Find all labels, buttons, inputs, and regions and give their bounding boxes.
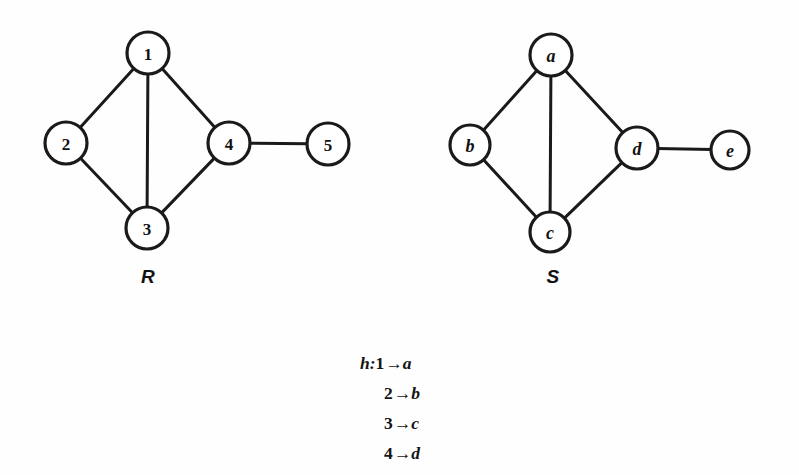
graph-node-1: 1	[127, 32, 169, 74]
node-label: 4	[225, 135, 234, 154]
graph-edge	[249, 143, 308, 144]
mapping-line: 4→d	[360, 438, 540, 468]
graph-edge	[657, 148, 712, 149]
mapping-target: a	[403, 353, 412, 373]
graph-edge	[483, 70, 538, 131]
nodes-layer: 12345abcde	[45, 32, 749, 252]
node-label: c	[546, 223, 554, 243]
node-label: 5	[324, 136, 333, 155]
mapping-target: d	[411, 443, 420, 463]
mapping-target: c	[411, 413, 419, 433]
mapping-source: 3	[384, 413, 393, 433]
graph-edge	[161, 157, 215, 213]
graph-node-2: 2	[45, 122, 87, 164]
mapping-line: 3→c	[360, 408, 540, 438]
node-label: d	[633, 139, 643, 159]
mapping-source: 4	[384, 443, 393, 463]
graph-node-5: 5	[307, 123, 349, 165]
mapping-arrow-icon: →	[393, 443, 412, 463]
graph-edge	[147, 73, 148, 208]
mapping-source: 1	[376, 353, 385, 373]
graph-node-d: d	[616, 127, 658, 169]
node-label: 2	[62, 135, 71, 154]
mapping-arrow-icon: →	[393, 383, 412, 403]
graph-edge	[565, 70, 624, 134]
graph-edge	[483, 159, 537, 218]
figure-root: 12345abcde R S h:1→a2→b3→c4→d	[0, 0, 799, 475]
mapping-target: b	[411, 383, 420, 403]
graph-edge	[80, 157, 133, 213]
graph-edge	[79, 68, 134, 128]
mapping-line: 2→b	[360, 378, 540, 408]
graph-node-e: e	[711, 131, 749, 169]
node-label: 3	[143, 220, 152, 239]
graph-node-c: c	[530, 212, 570, 252]
node-label: b	[466, 136, 475, 156]
graph-edge	[550, 75, 551, 213]
node-label: e	[726, 141, 734, 161]
mapping-source: 2	[384, 383, 393, 403]
mapping-function-name: h:	[360, 353, 376, 373]
mapping-line: h:1→a	[360, 348, 540, 378]
graph-edge	[564, 162, 623, 219]
graph-node-4: 4	[208, 122, 250, 164]
mapping-arrow-icon: →	[393, 413, 412, 433]
node-label: a	[547, 46, 556, 66]
graph-node-3: 3	[126, 207, 168, 249]
graph-caption-s: S	[546, 266, 559, 288]
graph-node-b: b	[450, 125, 490, 165]
mapping-arrow-icon: →	[384, 353, 403, 373]
mapping-block: h:1→a2→b3→c4→d	[360, 348, 540, 468]
graph-caption-r: R	[141, 266, 155, 288]
graph-edge	[161, 68, 215, 128]
node-label: 1	[144, 45, 153, 64]
graph-node-a: a	[530, 34, 572, 76]
